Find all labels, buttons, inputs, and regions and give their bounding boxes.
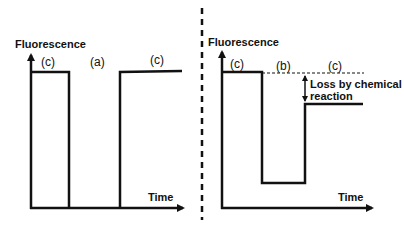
right-region-c2: (c) [328,59,342,73]
right-region-c1: (c) [230,57,244,71]
left-region-c1: (c) [41,55,55,69]
right-x-axis-label: Time [338,191,363,203]
diagram-canvas: Fluorescence Time (c) (a) (c) Fluorescen… [0,0,404,227]
left-y-axis-label: Fluorescence [15,38,86,50]
left-region-a: (a) [90,55,105,69]
left-region-c2: (c) [150,53,164,67]
left-signal-trace [31,72,69,208]
loss-annotation-line1: Loss by chemical [310,78,402,90]
right-region-b: (b) [276,59,291,73]
right-panel: Fluorescence Time (c) (b) (c) Loss by ch… [208,36,402,209]
left-x-axis-label: Time [148,191,173,203]
left-panel: Fluorescence Time (c) (a) (c) [15,38,183,209]
right-y-axis-label: Fluorescence [208,36,279,48]
loss-annotation-line2: reaction [310,90,353,102]
left-signal-recovery [120,71,182,208]
